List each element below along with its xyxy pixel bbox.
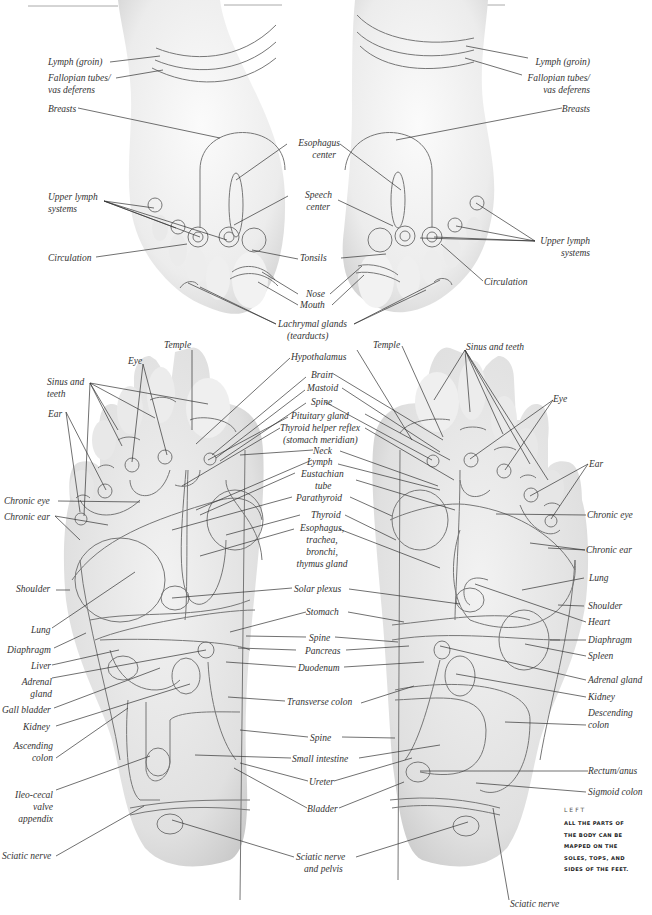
label-speech-center-2: center bbox=[290, 202, 330, 213]
label-duodenum: Duodenum bbox=[298, 663, 340, 674]
label-sciatic-pelvis-2: and pelvis bbox=[304, 864, 343, 875]
label-chronic-eye-right: Chronic eye bbox=[587, 510, 633, 521]
label-gall-bladder: Gall bladder bbox=[2, 705, 51, 716]
label-sciatic-left: Sciatic nerve bbox=[2, 851, 51, 862]
label-pituitary: Pituitary gland bbox=[291, 411, 349, 422]
label-eye-right: Eye bbox=[553, 394, 567, 405]
label-lymph-groin-right: Lymph (groin) bbox=[520, 57, 590, 68]
label-stomach: Stomach bbox=[306, 607, 339, 618]
label-kidney-right: Kidney bbox=[588, 692, 615, 703]
label-tonsils: Tonsils bbox=[300, 253, 327, 264]
label-lachrymal-1: Lachrymal glands bbox=[278, 319, 347, 330]
label-diaphragm-left: Diaphragm bbox=[7, 645, 51, 656]
label-upper-lymph-left-1: Upper lymph bbox=[48, 192, 98, 203]
label-thyroid-helper-2: (stomach meridian) bbox=[283, 435, 358, 446]
label-fallopian-left-2: vas deferens bbox=[48, 85, 95, 96]
label-pancreas: Pancreas bbox=[305, 646, 341, 657]
label-esophagus-sole-3: bronchi, bbox=[284, 547, 360, 558]
label-temple-left: Temple bbox=[164, 340, 191, 351]
label-adrenal-left-1: Adrenal bbox=[10, 677, 52, 688]
reflexology-diagram: Lymph (groin) Fallopian tubes/ vas defer… bbox=[0, 0, 652, 915]
label-lachrymal-2: (tearducts) bbox=[287, 331, 328, 342]
caption-line-1: ALL THE PARTS OF bbox=[564, 818, 629, 830]
right-sole bbox=[372, 347, 588, 880]
label-circulation-left: Circulation bbox=[48, 253, 91, 264]
label-mouth: Mouth bbox=[300, 300, 325, 311]
label-chronic-ear-right: Chronic ear bbox=[586, 545, 632, 556]
label-parathyroid: Parathyroid bbox=[296, 493, 342, 504]
caption-line-3: MAPPED ON THE bbox=[564, 841, 629, 853]
label-brain: Brain bbox=[311, 370, 333, 381]
label-thyroid: Thyroid bbox=[311, 510, 341, 521]
label-descending-colon-2: colon bbox=[588, 720, 609, 731]
label-eustachian-2: tube bbox=[315, 481, 331, 492]
label-neck: Neck bbox=[313, 446, 332, 457]
label-esophagus-sole-4: thymus gland bbox=[284, 559, 360, 570]
label-temple-right: Temple bbox=[373, 340, 400, 351]
label-sinus-left-1: Sinus and bbox=[47, 377, 84, 388]
label-fallopian-right-1: Fallopian tubes/ bbox=[510, 73, 590, 84]
label-lymph-groin-left: Lymph (groin) bbox=[48, 57, 103, 68]
label-speech-center-1: Speech bbox=[290, 190, 332, 201]
label-liver-left: Liver bbox=[31, 661, 51, 672]
caption-line-4: SOLES, TOPS, AND bbox=[564, 853, 629, 865]
label-small-intestine: Small intestine bbox=[292, 754, 348, 765]
label-ear-left: Ear bbox=[48, 409, 62, 420]
label-shoulder-left: Shoulder bbox=[16, 584, 50, 595]
label-ureter: Ureter bbox=[309, 777, 334, 788]
label-spine-top: Spine bbox=[311, 397, 332, 408]
label-eustachian-1: Eustachian bbox=[301, 469, 344, 480]
label-diaphragm-right: Diaphragm bbox=[588, 635, 632, 646]
label-sinus-right: Sinus and teeth bbox=[466, 342, 524, 353]
label-lymph-sole: Lymph bbox=[307, 457, 333, 468]
label-rectum: Rectum/anus bbox=[588, 766, 637, 777]
label-esophagus-center-2: center bbox=[276, 150, 336, 161]
label-ileo-cecal-3: appendix bbox=[0, 814, 53, 825]
label-esophagus-sole-2: trachea, bbox=[284, 535, 360, 546]
label-chronic-eye-left: Chronic eye bbox=[4, 496, 50, 507]
label-bladder: Bladder bbox=[307, 804, 338, 815]
label-fallopian-right-2: vas deferens bbox=[510, 85, 590, 96]
label-thyroid-helper-1: Thyroid helper reflex bbox=[280, 423, 360, 434]
label-sciatic-pelvis-1: Sciatic nerve bbox=[296, 852, 345, 863]
label-chronic-ear-left: Chronic ear bbox=[4, 512, 50, 523]
label-sciatic-right: Sciatic nerve bbox=[510, 899, 559, 910]
label-ileo-cecal-2: valve bbox=[0, 802, 53, 813]
label-ear-right: Ear bbox=[589, 459, 603, 470]
label-spleen: Spleen bbox=[588, 651, 613, 662]
label-spine-low: Spine bbox=[310, 733, 331, 744]
label-breasts-left: Breasts bbox=[48, 104, 76, 115]
label-breasts-right: Breasts bbox=[540, 104, 590, 115]
label-sinus-left-2: teeth bbox=[47, 389, 65, 400]
label-mastoid: Mastoid bbox=[307, 383, 338, 394]
label-heart: Heart bbox=[588, 617, 610, 628]
label-solar-plexus: Solar plexus bbox=[294, 584, 341, 595]
left-sole bbox=[64, 347, 264, 900]
caption-line-5: SIDES OF THE FEET. bbox=[564, 864, 629, 876]
label-lung-right: Lung bbox=[589, 573, 609, 584]
label-esophagus-center-1: Esophagus bbox=[276, 138, 340, 149]
caption-side: LEFT bbox=[564, 806, 629, 813]
label-lung-left: Lung bbox=[31, 625, 51, 636]
label-sigmoid: Sigmoid colon bbox=[588, 787, 643, 798]
label-kidney-left: Kidney bbox=[23, 722, 50, 733]
label-fallopian-left-1: Fallopian tubes/ bbox=[48, 73, 111, 84]
label-adrenal-left-2: gland bbox=[10, 689, 52, 700]
left-foot-top bbox=[118, 0, 285, 314]
label-nose: Nose bbox=[306, 289, 325, 300]
label-eye-left: Eye bbox=[128, 356, 142, 367]
label-shoulder-right: Shoulder bbox=[588, 601, 622, 612]
label-upper-lymph-left-2: systems bbox=[48, 204, 77, 215]
label-upper-lymph-right-1: Upper lymph bbox=[530, 236, 590, 247]
caption-line-2: THE BODY CAN BE bbox=[564, 830, 629, 842]
caption-block: LEFT ALL THE PARTS OF THE BODY CAN BE MA… bbox=[564, 806, 629, 876]
label-ileo-cecal-1: Ileo-cecal bbox=[0, 790, 53, 801]
label-circulation-right: Circulation bbox=[484, 277, 527, 288]
label-ascending-colon-2: colon bbox=[0, 753, 53, 764]
label-hypothalamus: Hypothalamus bbox=[291, 352, 346, 363]
label-transverse-colon: Transverse colon bbox=[287, 697, 352, 708]
label-esophagus-sole-1: Esophagus, bbox=[284, 523, 360, 534]
label-adrenal-right: Adrenal gland bbox=[588, 675, 642, 686]
label-spine-mid: Spine bbox=[309, 633, 330, 644]
label-ascending-colon-1: Ascending bbox=[0, 741, 53, 752]
